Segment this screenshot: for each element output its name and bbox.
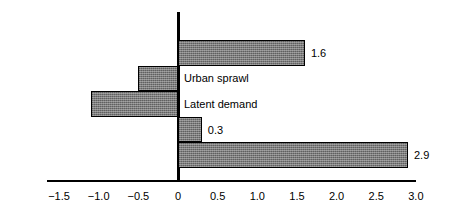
bar	[178, 40, 305, 66]
x-tick-label: −1.0	[88, 190, 110, 202]
bar-chart: Net benefit1.6Urban sprawl−0.5Latent dem…	[0, 0, 461, 218]
x-tick-label: −1.5	[48, 190, 70, 202]
x-tick-label: 1.0	[250, 190, 265, 202]
x-tick-label: 1.5	[289, 190, 304, 202]
bar	[178, 142, 408, 168]
x-tick-label: 2.5	[369, 190, 384, 202]
x-zero-tick-mark	[177, 176, 179, 181]
x-tick-label: 2.0	[329, 190, 344, 202]
bar	[91, 91, 178, 117]
plot-area: Net benefit1.6Urban sprawl−0.5Latent dem…	[0, 0, 461, 182]
bar-value-label: 1.6	[311, 47, 326, 59]
bar-category-label: Latent demand	[184, 98, 257, 110]
x-tick-label: 3.0	[408, 190, 423, 202]
x-tick-label: 0.5	[210, 190, 225, 202]
bar	[178, 117, 202, 143]
bar-value-label: 2.9	[414, 149, 429, 161]
x-tick-label: 0	[175, 190, 181, 202]
bar-category-label: Urban sprawl	[184, 72, 249, 84]
bar-value-label: 0.3	[208, 124, 223, 136]
bar	[138, 66, 178, 92]
x-tick-label: −0.5	[127, 190, 149, 202]
x-axis-line	[47, 180, 416, 182]
